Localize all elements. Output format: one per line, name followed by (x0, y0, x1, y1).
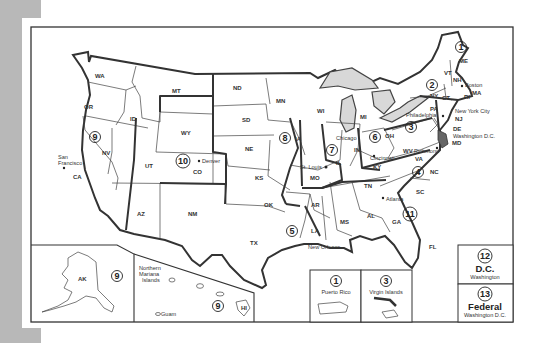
svg-text:AL: AL (367, 213, 375, 219)
svg-text:2: 2 (429, 80, 434, 90)
svg-text:Puerto Rico: Puerto Rico (321, 289, 350, 295)
svg-text:MT: MT (172, 88, 181, 94)
svg-text:NM: NM (188, 211, 197, 217)
svg-text:9: 9 (92, 132, 97, 142)
svg-text:3: 3 (383, 276, 388, 286)
svg-text:NJ: NJ (455, 116, 463, 122)
svg-text:New Orleans: New Orleans (308, 244, 341, 250)
svg-text:TX: TX (250, 240, 258, 246)
svg-text:KS: KS (255, 175, 263, 181)
svg-text:IN: IN (354, 147, 360, 153)
svg-text:MI: MI (360, 114, 367, 120)
island-shape (216, 292, 224, 296)
svg-text:Washington D.C.: Washington D.C. (464, 312, 507, 318)
svg-text:OH: OH (385, 133, 394, 139)
svg-text:Atlanta: Atlanta (386, 196, 404, 202)
svg-text:1: 1 (333, 276, 338, 286)
svg-text:ME: ME (459, 58, 468, 64)
svg-text:7: 7 (329, 145, 334, 155)
svg-text:6: 6 (372, 132, 377, 142)
svg-text:ND: ND (233, 85, 242, 91)
svg-text:AR: AR (311, 202, 320, 208)
svg-text:NC: NC (430, 169, 439, 175)
svg-text:VT: VT (444, 70, 452, 76)
svg-text:NY: NY (430, 93, 438, 99)
svg-text:Washington: Washington (470, 274, 499, 280)
svg-text:TN: TN (364, 183, 372, 189)
svg-text:Islands: Islands (142, 277, 160, 283)
svg-text:WY: WY (181, 130, 191, 136)
svg-text:UT: UT (145, 163, 153, 169)
svg-text:D.C.: D.C. (476, 263, 495, 274)
svg-text:13: 13 (480, 289, 490, 299)
svg-text:CO: CO (193, 169, 202, 175)
svg-text:CT: CT (442, 95, 450, 101)
svg-text:12: 12 (480, 251, 490, 261)
svg-text:KY: KY (373, 164, 381, 170)
svg-text:MO: MO (310, 175, 320, 181)
svg-text:MA: MA (472, 90, 482, 96)
svg-text:9: 9 (114, 271, 119, 281)
svg-text:IA: IA (295, 136, 302, 142)
svg-text:ID: ID (130, 116, 137, 122)
svg-text:1: 1 (458, 42, 463, 52)
svg-text:AK: AK (78, 276, 87, 282)
svg-text:WI: WI (317, 108, 325, 114)
svg-text:MD: MD (452, 140, 462, 146)
svg-text:St. Louis: St. Louis (300, 164, 322, 170)
svg-text:OK: OK (264, 202, 274, 208)
svg-text:Cincinnati: Cincinnati (370, 155, 395, 161)
svg-text:Guam: Guam (161, 311, 177, 317)
svg-text:MS: MS (340, 219, 349, 225)
svg-text:10: 10 (178, 156, 188, 166)
island-shape (169, 278, 175, 282)
svg-text:VA: VA (415, 156, 424, 162)
svg-text:Boston: Boston (465, 82, 482, 88)
svg-text:WV: WV (403, 148, 413, 154)
circuit-map: WA OR CA NV ID MT WY UT AZ CO NM ND SD N… (0, 0, 539, 343)
svg-text:5: 5 (289, 226, 294, 236)
svg-text:FL: FL (429, 244, 437, 250)
svg-text:MN: MN (276, 98, 285, 104)
svg-text:NV: NV (102, 150, 110, 156)
svg-text:NH: NH (453, 77, 462, 83)
svg-text:3: 3 (408, 122, 413, 132)
svg-text:RI: RI (464, 94, 470, 100)
svg-text:SC: SC (416, 189, 425, 195)
svg-text:New York City: New York City (455, 108, 490, 114)
svg-text:AZ: AZ (137, 211, 145, 217)
puerto-rico-shape (318, 302, 348, 314)
svg-text:NE: NE (245, 146, 253, 152)
svg-text:4: 4 (415, 167, 420, 177)
svg-text:LA: LA (311, 228, 320, 234)
svg-text:Francisco: Francisco (58, 160, 82, 166)
svg-text:CA: CA (73, 174, 82, 180)
island-shape (197, 284, 204, 289)
svg-text:Denver: Denver (202, 158, 220, 164)
svg-text:Chicago: Chicago (336, 135, 357, 141)
svg-text:IL: IL (336, 160, 342, 166)
svg-text:Richmond: Richmond (414, 148, 439, 154)
svg-text:SD: SD (242, 117, 251, 123)
svg-text:WA: WA (95, 73, 105, 79)
svg-text:9: 9 (215, 301, 220, 311)
svg-text:8: 8 (282, 133, 287, 143)
svg-text:Washington D.C.: Washington D.C. (453, 133, 496, 139)
svg-text:Virgin Islands: Virgin Islands (369, 289, 403, 295)
svg-text:Philadelphia: Philadelphia (406, 112, 437, 118)
svg-text:GA: GA (392, 219, 402, 225)
svg-text:OR: OR (84, 104, 94, 110)
svg-text:Federal: Federal (468, 301, 502, 312)
svg-text:DE: DE (453, 126, 461, 132)
svg-text:11: 11 (405, 209, 415, 219)
svg-text:HI: HI (241, 305, 247, 311)
guam-shape (156, 313, 161, 316)
